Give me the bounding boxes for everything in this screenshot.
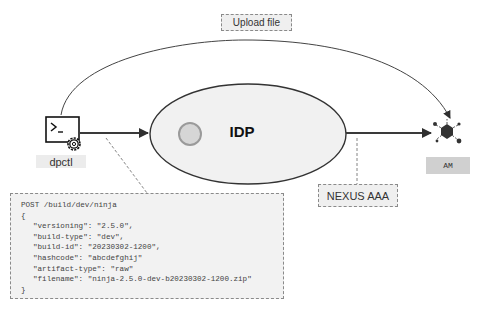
upload-file-note: Upload file [221,14,292,31]
request-line: "versioning": "2.5.0", [21,221,283,232]
request-connector [106,138,147,193]
request-line: "build-id": "20230302-1200", [21,242,283,253]
idp-label: IDP [220,123,264,140]
network-hub-icon[interactable] [433,119,461,143]
request-line: "build-type": "dev", [21,232,283,243]
request-line: POST /build/dev/ninja [21,200,283,211]
dpctl-label: dpctl [36,155,86,168]
idp-inner-circle [179,123,201,145]
terminal-gear-icon[interactable] [46,117,80,150]
nexus-aaa-note: NEXUS AAA [318,184,398,207]
request-line: "hashcode": "abcdefghij" [21,253,283,264]
request-code-block: POST /build/dev/ninja{"versioning": "2.5… [10,193,284,299]
request-line: { [21,211,283,222]
request-line: "artifact-type": "raw" [21,264,283,275]
am-label: AM [426,157,470,174]
request-line: "filename": "ninja-2.5.0-dev-b20230302-1… [21,274,283,285]
request-line: } [21,285,283,296]
